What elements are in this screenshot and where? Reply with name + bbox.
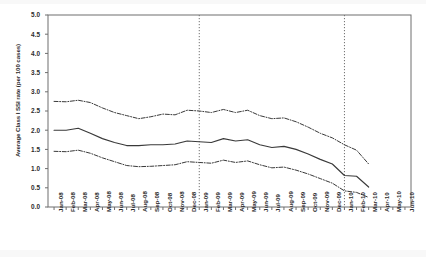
x-tick-label: May-08 bbox=[105, 191, 112, 212]
y-tick-label: 0.0 bbox=[22, 203, 40, 210]
x-tick-label: Jan-08 bbox=[57, 192, 64, 212]
x-tick-label: Mar-08 bbox=[81, 192, 88, 212]
x-tick-label: Aug-08 bbox=[141, 191, 148, 212]
y-tick-label: 3.5 bbox=[22, 69, 40, 76]
series-line bbox=[54, 100, 369, 164]
x-tick-label: Nov-08 bbox=[178, 191, 185, 212]
x-tick-label: May-09 bbox=[250, 191, 257, 212]
x-tick-label: Jul-08 bbox=[129, 194, 136, 212]
y-tick-label: 4.5 bbox=[22, 31, 40, 38]
y-tick-label: 3.0 bbox=[22, 88, 40, 95]
x-tick-label: Dec-08 bbox=[190, 192, 197, 212]
y-tick-label: 4.0 bbox=[22, 50, 40, 57]
x-tick-label: Dec-09 bbox=[335, 192, 342, 212]
x-tick-label: Apr-10 bbox=[383, 192, 390, 212]
x-tick-label: Nov-09 bbox=[323, 191, 330, 212]
x-tick-label: Mar-10 bbox=[371, 192, 378, 212]
x-tick-label: Feb-10 bbox=[359, 192, 366, 212]
x-tick-label: Oct-09 bbox=[311, 193, 318, 212]
series-line bbox=[54, 128, 369, 187]
x-tick-label: Aug-09 bbox=[287, 191, 294, 212]
y-tick-label: 0.5 bbox=[22, 184, 40, 191]
x-tick-label: Jun-10 bbox=[408, 192, 415, 212]
x-tick-label: Mar-09 bbox=[226, 192, 233, 212]
series-paths bbox=[54, 100, 369, 197]
y-tick-label: 1.5 bbox=[22, 146, 40, 153]
x-tick-label: May-10 bbox=[395, 191, 402, 212]
chart-figure: Average Class I SSI rate (per 100 cases)… bbox=[0, 0, 426, 257]
y-tick-label: 1.0 bbox=[22, 165, 40, 172]
x-tick-label: Feb-08 bbox=[69, 192, 76, 212]
x-tick-label: Jun-09 bbox=[262, 192, 269, 212]
series-line bbox=[54, 150, 369, 197]
y-tick-label: 5.0 bbox=[22, 11, 40, 18]
x-tick-label: Jul-09 bbox=[274, 194, 281, 212]
x-tick-label: Sep-08 bbox=[153, 192, 160, 212]
x-tick-label: Jan-10 bbox=[347, 192, 354, 212]
reference-lines bbox=[199, 15, 344, 207]
x-tick-label: Apr-08 bbox=[93, 192, 100, 212]
x-tick-label: Jun-08 bbox=[117, 192, 124, 212]
plot-canvas bbox=[0, 0, 426, 257]
x-tick-label: Apr-09 bbox=[238, 192, 245, 212]
y-tick-label: 2.0 bbox=[22, 127, 40, 134]
y-tick-label: 2.5 bbox=[22, 107, 40, 114]
x-tick-label: Jan-09 bbox=[202, 192, 209, 212]
x-tick-label: Feb-09 bbox=[214, 192, 221, 212]
x-tick-label: Oct-08 bbox=[166, 193, 173, 212]
x-tick-label: Sep-09 bbox=[299, 192, 306, 212]
